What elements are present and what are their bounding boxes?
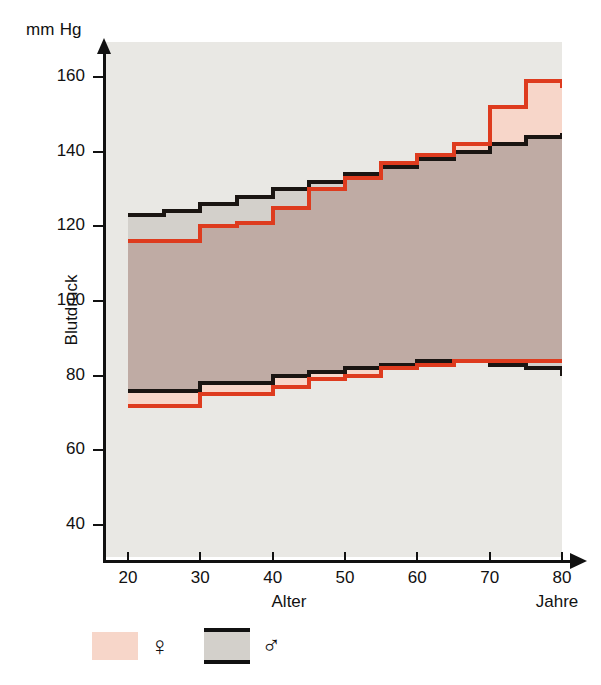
legend: ♀ ♂ [92, 628, 281, 664]
x-tick-60 [416, 552, 418, 563]
x-tick-label-80: 80 [540, 568, 584, 588]
x-tick-label-40: 40 [251, 568, 295, 588]
mars-icon: ♂ [262, 632, 282, 658]
y-tick-label-40: 40 [25, 514, 85, 534]
y-tick-140 [93, 151, 105, 153]
y-tick-label-160: 160 [25, 66, 85, 86]
y-axis-unit-label: mm Hg [26, 20, 82, 40]
x-tick-label-30: 30 [178, 568, 222, 588]
legend-swatch-male [204, 628, 250, 664]
x-tick-label-50: 50 [323, 568, 367, 588]
x-tick-20 [127, 552, 129, 563]
x-tick-40 [272, 552, 274, 563]
x-tick-label-70: 70 [468, 568, 512, 588]
x-tick-80 [561, 552, 563, 563]
x-tick-70 [489, 552, 491, 563]
blood-pressure-step-chart [106, 42, 562, 557]
y-tick-160 [93, 76, 105, 78]
legend-swatch-female [92, 632, 138, 660]
y-tick-label-100: 100 [25, 290, 85, 310]
x-tick-50 [344, 552, 346, 563]
y-axis-line [103, 52, 106, 562]
y-tick-120 [93, 225, 105, 227]
x-axis-unit-label: Jahre [512, 592, 601, 612]
overlap-band [128, 133, 562, 391]
venus-icon: ♀ [150, 633, 170, 659]
y-axis-arrow-icon [97, 38, 111, 54]
plot-area [106, 42, 562, 557]
y-tick-40 [93, 524, 105, 526]
y-tick-100 [93, 300, 105, 302]
x-tick-label-60: 60 [395, 568, 439, 588]
x-axis-line [103, 560, 573, 563]
y-tick-80 [93, 375, 105, 377]
legend-item-female: ♀ [92, 632, 170, 660]
y-tick-label-60: 60 [25, 439, 85, 459]
legend-item-male: ♂ [204, 628, 282, 664]
chart-page: mm Hg Blutdruck 160140120100806040 20304… [0, 0, 601, 685]
y-tick-60 [93, 449, 105, 451]
x-tick-30 [199, 552, 201, 563]
y-tick-label-120: 120 [25, 215, 85, 235]
x-axis-title: Alter [229, 592, 349, 612]
x-axis-arrow-icon [570, 553, 587, 569]
y-tick-label-140: 140 [25, 141, 85, 161]
plot-canvas [106, 42, 562, 557]
y-tick-label-80: 80 [25, 365, 85, 385]
x-tick-label-20: 20 [106, 568, 150, 588]
